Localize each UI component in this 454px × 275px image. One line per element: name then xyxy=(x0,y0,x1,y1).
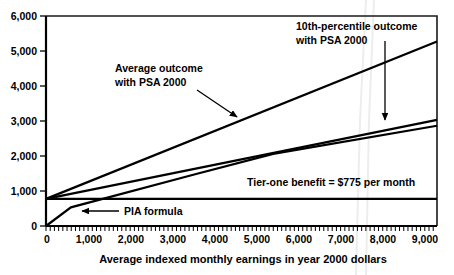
tenth-percentile-label-line1: 10th-percentile outcome xyxy=(296,20,418,32)
y-tick-labels: 6,000 5,000 4,000 3,000 2,000 1,000 0 xyxy=(11,10,37,232)
x-axis xyxy=(46,226,437,231)
x-tick-label: 9,000 xyxy=(412,233,438,245)
tier-one-benefit-label: Tier-one benefit = $775 per month xyxy=(247,176,415,188)
y-tick-label: 1,000 xyxy=(11,185,37,197)
data-series-group xyxy=(46,42,437,226)
y-tick-label: 3,000 xyxy=(11,115,37,127)
y-tick-label: 0 xyxy=(31,220,37,232)
pia-formula-label: PIA formula xyxy=(124,205,183,217)
x-tick-label: 2,000 xyxy=(118,233,144,245)
average-outcome-label-line1: Average outcome xyxy=(115,62,203,74)
x-tick-labels: 0 1,000 2,000 3,000 4,000 5,000 6,000 7,… xyxy=(44,233,438,245)
x-tick-label: 0 xyxy=(44,233,50,245)
x-tick-label: 5,000 xyxy=(244,233,270,245)
y-tick-label: 6,000 xyxy=(11,10,37,22)
y-tick-label: 5,000 xyxy=(11,45,37,57)
x-tick-label: 8,000 xyxy=(370,233,396,245)
average-outcome-label-line2: with PSA 2000 xyxy=(114,76,187,88)
x-tick-label: 1,000 xyxy=(76,233,102,245)
y-axis xyxy=(40,16,46,226)
x-tick-label: 4,000 xyxy=(202,233,228,245)
y-tick-label: 4,000 xyxy=(11,80,37,92)
x-axis-title: Average indexed monthly earnings in year… xyxy=(99,253,387,265)
x-tick-label: 6,000 xyxy=(286,233,312,245)
x-tick-label: 7,000 xyxy=(328,233,354,245)
x-tick-label: 3,000 xyxy=(160,233,186,245)
tenth-percentile-label-line2: with PSA 2000 xyxy=(295,34,368,46)
chart-figure: 6,000 5,000 4,000 3,000 2,000 1,000 0 0 … xyxy=(0,0,454,275)
average-outcome-arrow xyxy=(197,90,237,117)
y-tick-label: 2,000 xyxy=(11,150,37,162)
chart-canvas: 6,000 5,000 4,000 3,000 2,000 1,000 0 0 … xyxy=(0,0,454,275)
